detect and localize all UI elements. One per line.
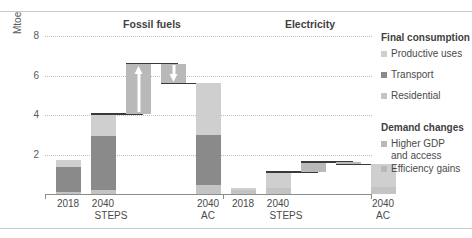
bar-fossil-2018 — [56, 160, 81, 194]
legend-label-efficiency-gains: Efficiency gains — [391, 163, 460, 175]
segment-transport — [56, 167, 81, 192]
legend-label-productive-uses: Productive uses — [391, 48, 462, 60]
chart-legend: Final consumption Productive uses Transp… — [381, 32, 472, 176]
x-label-fossil-2040-steps-scenario: STEPS — [95, 210, 128, 222]
x-label-electricity-2018-text: 2018 — [232, 198, 254, 209]
arrow-down-efficiency-gains — [169, 65, 178, 82]
x-axis-tick-start — [45, 194, 46, 199]
legend-item-efficiency-gains: Efficiency gains — [381, 163, 472, 175]
legend-item-residential: Residential — [381, 90, 472, 102]
segment-productive-uses — [56, 160, 81, 167]
legend-label-residential: Residential — [391, 90, 440, 102]
segment-productive-uses — [91, 114, 116, 136]
gridline-6 — [45, 76, 372, 77]
x-label-electricity-2040-steps-scenario: STEPS — [270, 210, 303, 222]
x-label-fossil-2018-text: 2018 — [57, 198, 79, 209]
legend-swatch-residential-icon — [381, 93, 387, 99]
y-tick-label-8: 8 — [33, 31, 39, 41]
x-label-fossil-2040-ac-year: 2040 — [197, 198, 219, 209]
x-label-fossil-2040-ac-scenario: AC — [197, 210, 219, 222]
segment-productive-uses — [196, 83, 221, 134]
segment-residential — [196, 185, 221, 194]
x-label-electricity-2040-ac: 2040 AC — [372, 198, 394, 222]
bar-fossil-2040-steps — [91, 114, 116, 194]
x-label-electricity-2040-steps-year: 2040 — [267, 198, 289, 209]
y-tick-label-4: 4 — [33, 110, 39, 120]
segment-residential — [371, 187, 396, 194]
plot-area: 8 6 4 2 — [45, 24, 372, 194]
legend-swatch-efficiency-gains-icon — [381, 166, 387, 172]
bar-fossil-2040-ac — [196, 83, 221, 194]
arrow-up-higher-gdp — [134, 66, 143, 112]
legend-item-productive-uses: Productive uses — [381, 48, 472, 60]
x-axis-tick-mid — [223, 194, 224, 199]
segment-productive-uses — [266, 172, 291, 188]
y-tick-label-2: 2 — [33, 150, 39, 160]
y-axis-title: Mtoe — [12, 12, 23, 34]
legend-swatch-transport-icon — [381, 72, 387, 78]
legend-label-higher-gdp-line2: and access — [391, 150, 442, 161]
segment-productive-uses — [231, 188, 256, 191]
x-label-fossil-2040-steps: 2040 STEPS — [79, 198, 128, 222]
gridline-8 — [45, 36, 372, 37]
x-label-fossil-2018: 2018 — [57, 198, 79, 210]
legend-heading-final-consumption: Final consumption — [381, 32, 472, 43]
x-label-fossil-2040-steps-year: 2040 — [92, 198, 114, 209]
x-label-electricity-2018: 2018 — [232, 198, 254, 210]
legend-group-demand-changes: Demand changes Higher GDP and access Eff… — [381, 122, 472, 175]
bottom-divider — [0, 228, 472, 229]
x-label-electricity-2040-ac-scenario: AC — [372, 210, 394, 222]
bar-electricity-higher-gdp — [301, 162, 326, 172]
x-label-electricity-2040-steps: 2040 STEPS — [254, 198, 303, 222]
legend-swatch-higher-gdp-icon — [381, 141, 387, 147]
legend-swatch-productive-uses-icon — [381, 51, 387, 57]
segment-transport — [91, 136, 116, 190]
x-label-electricity-2040-ac-year: 2040 — [372, 198, 394, 209]
chart-figure: Mtoe Fossil fuels Electricity 8 6 4 2 — [0, 0, 472, 238]
x-label-fossil-2040-ac: 2040 AC — [197, 198, 219, 222]
legend-heading-demand-changes: Demand changes — [381, 122, 472, 133]
y-tick-label-6: 6 — [33, 71, 39, 81]
top-divider — [0, 11, 472, 12]
legend-label-transport: Transport — [391, 69, 433, 81]
legend-label-higher-gdp-line1: Higher GDP — [391, 138, 445, 149]
bar-electricity-2040-steps — [266, 172, 291, 194]
legend-item-transport: Transport — [381, 69, 472, 81]
legend-item-higher-gdp-and-access: Higher GDP and access — [381, 138, 472, 162]
x-axis-line — [45, 194, 372, 195]
segment-transport — [196, 135, 221, 185]
